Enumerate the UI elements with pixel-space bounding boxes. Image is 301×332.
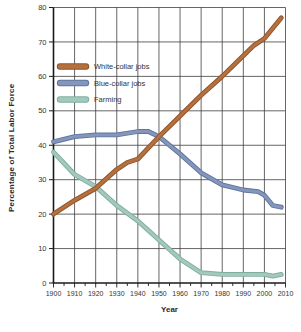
x-tick-label: 1950 <box>151 290 167 297</box>
legend-label-white-collar-jobs: White-collar jobs <box>94 62 150 71</box>
y-tick-label: 20 <box>38 210 46 219</box>
legend-label-blue-collar-jobs: Blue-collar jobs <box>94 79 146 88</box>
x-axis-title: Year <box>53 305 286 314</box>
y-tick-label: 70 <box>38 38 46 47</box>
labor-force-chart: 0102030405060708019001910192019301940195… <box>0 0 301 332</box>
chart-canvas: 0102030405060708019001910192019301940195… <box>0 0 301 332</box>
x-tick-label: 1990 <box>236 290 252 297</box>
x-tick-label: 1930 <box>109 290 125 297</box>
x-tick-label: 1940 <box>130 290 146 297</box>
y-axis-title: Percentage of Total Labor Force <box>4 10 18 286</box>
y-tick-label: 0 <box>42 279 46 288</box>
y-tick-label: 50 <box>38 106 46 115</box>
x-tick-label: 1970 <box>193 290 209 297</box>
y-tick-label: 80 <box>38 3 46 12</box>
legend-label-farming: Farming <box>94 95 122 104</box>
x-tick-label: 1980 <box>214 290 230 297</box>
y-tick-label: 60 <box>38 72 46 81</box>
y-tick-label: 30 <box>38 175 46 184</box>
x-tick-label: 1910 <box>67 290 83 297</box>
x-tick-label: 1900 <box>46 290 62 297</box>
x-tick-label: 1960 <box>172 290 188 297</box>
x-tick-label: 2010 <box>278 290 294 297</box>
x-tick-label: 1920 <box>88 290 104 297</box>
y-tick-label: 10 <box>38 244 46 253</box>
y-tick-label: 40 <box>38 141 46 150</box>
x-tick-label: 2000 <box>257 290 273 297</box>
series-line-blue-collar-jobs <box>54 132 282 208</box>
